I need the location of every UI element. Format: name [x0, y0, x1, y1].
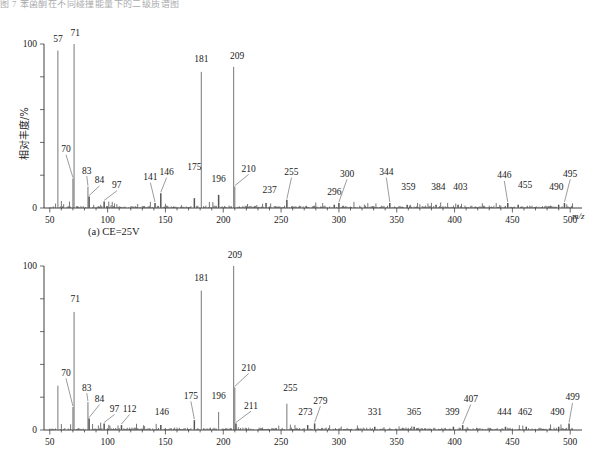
svg-text:0: 0 [32, 425, 37, 435]
svg-text:250: 250 [274, 437, 289, 447]
svg-text:462: 462 [518, 407, 533, 417]
svg-text:175: 175 [184, 391, 199, 401]
svg-text:210: 210 [242, 363, 257, 373]
svg-text:300: 300 [340, 169, 355, 179]
spectrum-panel-a: 0100501001502002503003504004505005771708… [0, 12, 609, 240]
figure-header-text: 图 7 苯菌酮在不同碰撞能量下的二级质谱图 [0, 0, 300, 9]
svg-text:84: 84 [95, 175, 105, 185]
svg-text:83: 83 [82, 166, 92, 176]
svg-text:300: 300 [332, 215, 347, 225]
svg-text:499: 499 [565, 392, 580, 402]
svg-text:495: 495 [563, 169, 578, 179]
svg-text:273: 273 [298, 407, 313, 417]
caption-a: (a) CE=25V [88, 226, 140, 237]
svg-text:399: 399 [445, 407, 460, 417]
svg-text:100: 100 [23, 39, 38, 49]
svg-text:112: 112 [123, 404, 137, 414]
svg-text:50: 50 [45, 215, 55, 225]
svg-text:100: 100 [100, 215, 115, 225]
svg-text:450: 450 [505, 215, 520, 225]
svg-text:300: 300 [332, 437, 347, 447]
svg-text:344: 344 [379, 167, 394, 177]
svg-text:407: 407 [464, 394, 479, 404]
mass-spectra-figure: 图 7 苯菌酮在不同碰撞能量下的二级质谱图 010050100150200250… [0, 0, 609, 471]
svg-text:250: 250 [274, 215, 289, 225]
svg-text:200: 200 [216, 215, 231, 225]
svg-text:209: 209 [228, 250, 243, 260]
svg-text:71: 71 [70, 294, 80, 304]
svg-text:450: 450 [505, 437, 520, 447]
svg-text:500: 500 [563, 437, 578, 447]
svg-text:196: 196 [212, 174, 227, 184]
svg-text:296: 296 [327, 187, 342, 197]
svg-text:350: 350 [390, 437, 405, 447]
svg-text:71: 71 [70, 28, 80, 38]
x-axis-label-a: m/z [572, 211, 585, 221]
svg-text:200: 200 [216, 437, 231, 447]
svg-text:146: 146 [159, 167, 174, 177]
svg-text:150: 150 [158, 215, 173, 225]
svg-text:331: 331 [368, 407, 383, 417]
svg-text:490: 490 [550, 407, 565, 417]
svg-text:279: 279 [313, 396, 328, 406]
svg-text:0: 0 [32, 203, 37, 213]
svg-text:255: 255 [283, 383, 298, 393]
svg-text:210: 210 [242, 164, 257, 174]
svg-text:209: 209 [230, 51, 245, 61]
svg-text:455: 455 [518, 180, 533, 190]
svg-text:57: 57 [53, 34, 63, 44]
svg-text:384: 384 [431, 182, 446, 192]
svg-text:350: 350 [390, 215, 405, 225]
svg-text:97: 97 [110, 404, 120, 414]
svg-text:444: 444 [497, 407, 512, 417]
svg-text:70: 70 [61, 144, 71, 154]
svg-text:403: 403 [453, 182, 468, 192]
svg-text:84: 84 [95, 394, 105, 404]
svg-text:400: 400 [447, 215, 462, 225]
svg-text:365: 365 [407, 407, 422, 417]
spectrum-a-plot: 0100501001502002503003504004505005771708… [0, 12, 609, 240]
svg-text:146: 146 [155, 407, 170, 417]
svg-text:359: 359 [401, 182, 416, 192]
svg-text:141: 141 [143, 172, 158, 182]
svg-text:83: 83 [82, 383, 92, 393]
spectrum-panel-b: 0100501001502002503003504004505007170838… [0, 240, 609, 471]
svg-text:100: 100 [23, 261, 38, 271]
spectrum-b-plot: 0100501001502002503003504004505007170838… [0, 240, 609, 471]
svg-text:175: 175 [187, 162, 202, 172]
svg-text:100: 100 [100, 437, 115, 447]
svg-text:196: 196 [212, 391, 227, 401]
svg-text:211: 211 [244, 401, 258, 411]
svg-text:255: 255 [284, 167, 299, 177]
svg-text:446: 446 [497, 170, 512, 180]
svg-text:400: 400 [447, 437, 462, 447]
y-axis-label-a: 相对丰度/% [16, 107, 31, 160]
svg-text:150: 150 [158, 437, 173, 447]
svg-text:50: 50 [45, 437, 55, 447]
svg-text:70: 70 [61, 368, 71, 378]
svg-text:237: 237 [262, 185, 277, 195]
svg-text:181: 181 [194, 54, 209, 64]
svg-text:181: 181 [194, 273, 209, 283]
svg-text:490: 490 [549, 182, 564, 192]
svg-text:97: 97 [112, 180, 122, 190]
